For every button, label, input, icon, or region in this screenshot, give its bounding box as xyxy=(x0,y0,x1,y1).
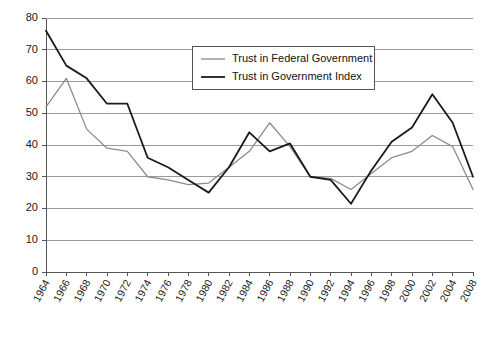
x-tick-label: 1996 xyxy=(356,277,378,303)
x-tick-label: 1986 xyxy=(254,277,276,303)
legend-label-1: Trust in Federal Government xyxy=(232,52,372,64)
x-tick-label: 1998 xyxy=(376,277,398,303)
y-axis-ticks xyxy=(42,18,46,272)
x-tick-label: 2002 xyxy=(417,277,439,303)
chart-canvas: 01020304050607080 1964196619681970197219… xyxy=(0,0,491,350)
x-axis-tick-labels: 1964196619681970197219741976197819801982… xyxy=(30,277,479,303)
x-tick-label: 1970 xyxy=(91,277,113,303)
x-tick-label: 1966 xyxy=(51,277,73,303)
y-tick-label: 80 xyxy=(26,11,38,23)
x-axis-ticks xyxy=(46,272,473,276)
x-tick-label: 1972 xyxy=(112,277,134,303)
y-axis-tick-labels: 01020304050607080 xyxy=(26,11,38,277)
y-tick-label: 50 xyxy=(26,106,38,118)
x-tick-label: 1976 xyxy=(152,277,174,303)
x-tick-label: 1988 xyxy=(274,277,296,303)
x-tick-label: 1992 xyxy=(315,277,337,303)
y-tick-label: 0 xyxy=(32,265,38,277)
x-tick-label: 1990 xyxy=(295,277,317,303)
x-tick-label: 1984 xyxy=(234,277,256,303)
line-chart: 01020304050607080 1964196619681970197219… xyxy=(0,0,491,350)
x-tick-label: 1994 xyxy=(335,277,357,303)
x-tick-label: 1968 xyxy=(71,277,93,303)
legend: Trust in Federal GovernmentTrust in Gove… xyxy=(192,46,374,89)
x-tick-label: 2004 xyxy=(437,277,459,303)
y-tick-label: 30 xyxy=(26,170,38,182)
x-tick-label: 2008 xyxy=(457,277,479,303)
x-tick-label: 1982 xyxy=(213,277,235,303)
y-tick-label: 20 xyxy=(26,201,38,213)
y-tick-label: 40 xyxy=(26,138,38,150)
y-tick-label: 60 xyxy=(26,74,38,86)
y-tick-label: 10 xyxy=(26,233,38,245)
legend-label-2: Trust in Government Index xyxy=(232,70,362,82)
x-tick-label: 1964 xyxy=(30,277,52,303)
x-tick-label: 1974 xyxy=(132,277,154,303)
series-line-1 xyxy=(46,78,473,189)
x-tick-label: 1978 xyxy=(173,277,195,303)
y-tick-label: 70 xyxy=(26,43,38,55)
x-tick-label: 1980 xyxy=(193,277,215,303)
x-tick-label: 2000 xyxy=(396,277,418,303)
